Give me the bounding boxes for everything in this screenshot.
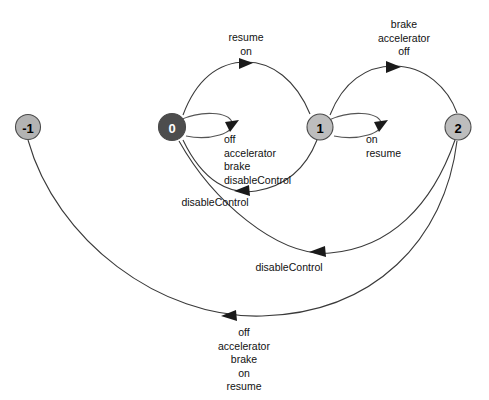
node-2-label: 2 — [454, 121, 461, 136]
edge-0-to-1[interactable] — [183, 58, 310, 115]
state-diagram-canvas: -1 0 1 2 resume on brake accelerator off… — [0, 0, 489, 400]
edge-2-to-0-arrowhead — [309, 246, 326, 257]
node-0-label: 0 — [168, 121, 175, 136]
node-2[interactable]: 2 — [445, 114, 471, 140]
edge-label-1-self-loop: on resume — [366, 133, 446, 160]
edge-1-to-2[interactable] — [330, 61, 457, 115]
edge-label-0-self-loop: off accelerator brake disableControl — [224, 133, 334, 187]
edge-0-to-1-path — [183, 62, 310, 115]
edge-label-1-to-0: disableControl — [155, 196, 275, 210]
edge-0-to-1-arrowhead — [239, 58, 253, 69]
edge-2-to-minus1-arrowhead — [221, 310, 237, 321]
edge-label-1-to-2: brake accelerator off — [354, 18, 454, 59]
edge-label-0-to-1: resume on — [206, 31, 286, 58]
edge-0-self-loop-arrowhead — [225, 120, 239, 132]
edge-1-to-2-path — [330, 66, 457, 115]
edge-1-self-loop-arrowhead — [374, 120, 388, 132]
node-minus1[interactable]: -1 — [16, 115, 41, 140]
edge-1-to-2-arrowhead — [386, 61, 401, 73]
node-0[interactable]: 0 — [159, 114, 186, 141]
edge-label-2-to-0: disableControl — [229, 261, 349, 275]
edge-label-2-to-minus1: off accelerator brake on resume — [194, 326, 294, 394]
node-minus1-label: -1 — [22, 121, 34, 136]
